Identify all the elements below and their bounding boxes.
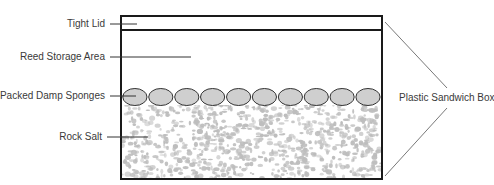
salt-speckle xyxy=(198,160,202,163)
salt-speckle xyxy=(200,144,205,147)
salt-speckle xyxy=(326,117,330,121)
salt-speckle xyxy=(140,150,142,152)
salt-speckle xyxy=(351,139,353,142)
salt-speckle xyxy=(134,154,137,156)
salt-speckle xyxy=(163,134,166,137)
salt-speckle xyxy=(163,144,165,147)
salt-speckle xyxy=(174,142,179,144)
salt-speckle xyxy=(320,173,324,176)
salt-speckle xyxy=(179,121,184,123)
salt-speckle xyxy=(324,149,328,151)
salt-speckle xyxy=(200,113,204,115)
salt-speckle xyxy=(193,162,198,164)
salt-speckle xyxy=(334,127,339,132)
salt-speckle xyxy=(187,149,191,152)
salt-speckle xyxy=(172,119,176,121)
salt-speckle xyxy=(308,140,311,144)
salt-speckle xyxy=(340,109,346,111)
salt-speckle xyxy=(192,137,195,141)
salt-speckle xyxy=(287,110,293,114)
salt-speckle xyxy=(181,146,187,149)
salt-speckle xyxy=(227,144,229,147)
salt-speckle xyxy=(340,121,343,125)
packed-damp-sponges-label: Packed Damp Sponges xyxy=(0,90,105,101)
salt-speckle xyxy=(237,114,240,116)
tight-lid-label: Tight Lid xyxy=(67,18,105,29)
salt-speckle xyxy=(236,138,242,143)
salt-speckle xyxy=(214,172,218,175)
salt-speckle xyxy=(203,148,208,151)
salt-speckle xyxy=(226,132,229,135)
salt-speckle xyxy=(361,150,364,153)
salt-speckle xyxy=(255,140,260,144)
salt-speckle xyxy=(145,120,148,122)
salt-speckle xyxy=(375,133,378,136)
salt-speckle xyxy=(174,167,176,170)
salt-speckle xyxy=(284,140,289,144)
salt-speckle xyxy=(309,167,315,169)
salt-speckle xyxy=(324,166,328,169)
salt-speckle xyxy=(339,131,344,134)
salt-speckle xyxy=(227,126,232,128)
salt-speckle xyxy=(256,136,262,138)
salt-speckle xyxy=(220,127,226,129)
salt-speckle xyxy=(139,171,145,176)
salt-speckle xyxy=(329,127,333,129)
salt-speckle xyxy=(359,132,364,136)
salt-speckle xyxy=(348,130,350,133)
salt-speckle xyxy=(191,111,197,113)
sponge xyxy=(175,89,199,106)
salt-speckle xyxy=(213,130,215,132)
salt-speckle xyxy=(197,129,203,134)
salt-speckle xyxy=(374,106,378,111)
salt-speckle xyxy=(314,140,317,144)
salt-speckle xyxy=(310,131,313,133)
salt-speckle xyxy=(349,135,351,138)
salt-speckle xyxy=(300,142,304,145)
salt-speckle xyxy=(352,109,354,114)
salt-speckle xyxy=(136,126,140,129)
salt-speckle xyxy=(216,133,220,137)
salt-speckle xyxy=(143,161,147,164)
salt-speckle xyxy=(241,168,246,172)
salt-speckle xyxy=(174,151,177,156)
sponge xyxy=(227,89,251,106)
salt-speckle xyxy=(146,109,151,111)
salt-speckle xyxy=(286,172,288,174)
salt-speckle xyxy=(363,109,368,112)
salt-speckle xyxy=(179,106,182,109)
salt-speckle xyxy=(369,108,374,113)
salt-speckle xyxy=(290,148,295,150)
salt-speckle xyxy=(260,126,265,131)
salt-speckle xyxy=(364,140,368,145)
salt-speckle xyxy=(279,134,285,136)
salt-speckle xyxy=(201,150,203,154)
salt-speckle xyxy=(247,124,249,129)
salt-speckle xyxy=(172,147,175,152)
salt-speckle xyxy=(276,118,281,121)
salt-speckle xyxy=(194,142,198,147)
salt-speckle xyxy=(212,143,217,145)
salt-speckle xyxy=(178,172,183,176)
salt-speckle xyxy=(135,151,139,154)
salt-speckle xyxy=(213,139,216,141)
salt-speckle xyxy=(148,172,153,175)
salt-speckle xyxy=(373,161,378,165)
salt-speckle xyxy=(245,117,248,121)
salt-speckle xyxy=(245,106,248,108)
salt-speckle xyxy=(241,151,247,154)
salt-speckle xyxy=(148,134,151,139)
salt-speckle xyxy=(141,154,143,158)
salt-speckle xyxy=(275,163,280,166)
salt-speckle xyxy=(136,113,141,116)
salt-speckle xyxy=(251,157,256,161)
salt-speckle xyxy=(262,151,266,155)
salt-speckle xyxy=(199,115,203,120)
salt-speckle xyxy=(192,129,196,131)
salt-speckle xyxy=(198,149,201,151)
salt-speckle xyxy=(195,103,198,105)
salt-speckle xyxy=(342,151,347,155)
salt-speckle xyxy=(305,174,308,176)
salt-speckle xyxy=(160,169,163,174)
salt-speckle xyxy=(253,106,255,110)
